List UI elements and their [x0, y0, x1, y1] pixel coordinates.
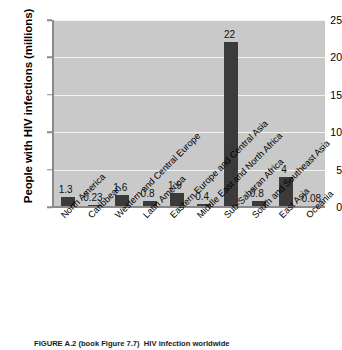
figure-container: People with HIV infections (millions) 05…	[0, 0, 342, 350]
caption-figure-number: FIGURE A.2 (book Figure 7.7)	[34, 339, 140, 348]
bar-value-label: 0.8	[141, 188, 155, 199]
bar-value-label: 0.08	[302, 193, 321, 204]
bar-value-label: 22	[224, 29, 235, 40]
gridline	[54, 57, 325, 58]
bar-value-label: 1.3	[59, 184, 73, 195]
caption-text: HIV infection worldwide	[144, 339, 230, 348]
bar-value-label: 4	[281, 164, 287, 175]
bar-value-label: 0.8	[250, 188, 264, 199]
figure-caption: FIGURE A.2 (book Figure 7.7) HIV infecti…	[34, 339, 334, 348]
y-axis-title: People with HIV infections (millions)	[22, 6, 34, 206]
gridline	[54, 20, 325, 21]
gridline	[54, 132, 325, 133]
bar-value-label: 1.6	[113, 182, 127, 193]
gridline	[54, 95, 325, 96]
bar-value-label: 0.4	[195, 191, 209, 202]
bar-value-label: 1.9	[168, 180, 182, 191]
bar-value-label: 0.23	[83, 192, 102, 203]
